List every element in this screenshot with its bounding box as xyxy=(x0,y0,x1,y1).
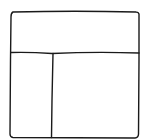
header-region xyxy=(12,13,138,52)
sidebar-region xyxy=(12,54,51,137)
sidebar-divider xyxy=(52,54,54,138)
header-divider xyxy=(11,52,139,53)
main-content-region xyxy=(54,54,138,137)
